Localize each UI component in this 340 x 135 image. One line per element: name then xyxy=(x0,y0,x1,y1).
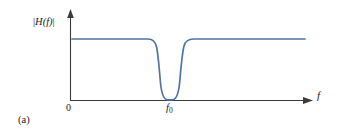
x-axis xyxy=(71,97,314,104)
y-axis-label-inner: H(f) xyxy=(35,16,53,27)
notch-center-tick-label: f0 xyxy=(166,103,173,114)
x-axis-label: f xyxy=(317,90,320,101)
notch-center-subscript: 0 xyxy=(169,106,173,115)
origin-tick-label: 0 xyxy=(66,103,71,113)
figure-panel: |H(f)| f 0 f0 (a) xyxy=(0,0,340,135)
x-axis-arrow-icon xyxy=(303,97,313,104)
magnitude-response-curve xyxy=(72,39,305,100)
panel-caption: (a) xyxy=(18,115,30,126)
y-axis xyxy=(67,9,74,101)
y-axis-label: |H(f)| xyxy=(33,17,55,28)
y-axis-arrow-icon xyxy=(67,9,74,18)
y-axis-label-bar-right: | xyxy=(53,16,55,27)
